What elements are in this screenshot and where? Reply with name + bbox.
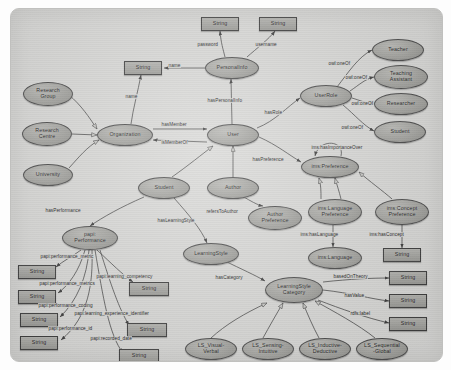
edge-label-el_hasperf: hasPerformance — [45, 208, 81, 213]
graph-node-personalinfo[interactable]: PersonalInfo — [205, 57, 259, 79]
edge-label-el_name_pi: name — [168, 63, 181, 68]
graph-node-student[interactable]: Student — [138, 177, 190, 199]
graph-node-user[interactable]: User — [207, 124, 259, 146]
graph-node-str_p1[interactable]: String — [18, 265, 56, 279]
graph-node-ls_vv[interactable]: LS_Visual-Verbal — [185, 338, 237, 360]
edge-label-el_username: username — [255, 42, 277, 47]
edge-label-el_p_date: papi:recorded_date — [90, 336, 132, 341]
graph-node-str_p2[interactable]: String — [18, 290, 56, 304]
edge-label-el_name_org: name — [125, 94, 138, 99]
edge-label-el_hasmember: hasMember — [161, 122, 187, 127]
graph-node-ls_sg[interactable]: LS_Sequential-Global — [356, 338, 408, 360]
graph-node-imslangpref[interactable]: ims:LanguagePreference — [308, 199, 362, 225]
edge-label-el_password: password — [197, 42, 218, 47]
graph-node-str_p5[interactable]: String — [129, 282, 169, 296]
edge-label-el_ismemberof: isMemberOf — [161, 140, 188, 145]
graph-node-teacher[interactable]: Teacher — [372, 39, 424, 61]
edge-label-el_hascategory: hasCategory — [215, 275, 243, 280]
edge-label-el_hasrole: hasRole — [264, 110, 283, 115]
edge-label-el_p_id: papi:performance_id — [48, 326, 93, 331]
graph-node-author[interactable]: Author — [207, 177, 259, 199]
edge-label-el_p_comp: papi:learning_competency — [96, 274, 153, 279]
edge-label-el_haspersonal: hasPersonalInfo — [207, 98, 243, 103]
graph-node-str_value_2[interactable]: String — [389, 294, 427, 308]
edge-label-el_haspref: hasPreference — [252, 157, 284, 162]
screenshot-root: StringStringStringPersonalInfoTeacherTea… — [0, 0, 451, 370]
graph-node-teachassist[interactable]: TeachingAssistant — [374, 65, 428, 89]
edge-label-el_referstoauth: refersToAuthor — [206, 209, 238, 214]
edge-label-el_haslearnsty: hasLearningStyle — [157, 218, 195, 223]
edge-label-el_hasvalue: hasValue — [344, 293, 365, 298]
graph-node-str_p7[interactable]: String — [119, 349, 159, 362]
edge-label-el_imsconcept: ims:hasConcept — [369, 232, 404, 237]
graph-node-str_p3[interactable]: String — [20, 313, 58, 327]
graph-node-str_p4[interactable]: String — [20, 336, 58, 350]
graph-node-imsconceptpref[interactable]: ims:ConceptPreference — [375, 199, 429, 225]
edge-label-el_oneof3: owl:oneOf — [351, 101, 374, 106]
graph-node-str_p6[interactable]: String — [127, 323, 167, 337]
graph-node-str_value_3[interactable]: String — [389, 317, 427, 331]
edge-label-el_oneof4: owl:oneOf — [341, 125, 364, 130]
edge-label-el_p_lei: papi:learning_experience_identifier — [74, 311, 149, 316]
graph-node-str_username[interactable]: String — [259, 17, 297, 31]
graph-node-organization[interactable]: Organization — [97, 124, 153, 146]
graph-node-papiperf[interactable]: papi:Performance — [62, 226, 118, 250]
edge-label-el_oneof2: owl:oneOf — [345, 75, 368, 80]
edge-label-el_p_metric2: papi:performance_metrics — [39, 281, 95, 286]
graph-node-imspref[interactable]: ims:Preference — [301, 156, 359, 178]
graph-node-learningstyle[interactable]: LearningStyle — [183, 243, 239, 265]
edge-label-el_oneof1: owl:oneOf — [328, 61, 351, 66]
graph-node-userrole[interactable]: UserRole — [300, 85, 352, 107]
graph-node-str_name[interactable]: String — [124, 61, 162, 75]
graph-node-researcher[interactable]: Researcher — [374, 93, 428, 115]
edge-label-el_rdfslabel: rdfs:label — [350, 311, 371, 316]
graph-node-lscategory[interactable]: LearningStyleCategory — [265, 277, 323, 303]
edge-label-el_basedon: basedOnTheory — [333, 274, 368, 279]
graph-node-str_password[interactable]: String — [201, 17, 239, 31]
edge-label-el_importance: ims:hasImportanceOver — [311, 145, 363, 150]
graph-node-authorpref[interactable]: AuthorPreference — [248, 206, 302, 230]
graph-node-researchcentre[interactable]: ResearchCentre — [22, 122, 72, 146]
graph-node-str_value_1[interactable]: String — [389, 271, 427, 285]
diagram-canvas: StringStringStringPersonalInfoTeacherTea… — [10, 8, 443, 362]
edge-label-el_imslang: ims:hasLanguage — [300, 232, 339, 237]
graph-node-ls_si[interactable]: LS_Sensing-Intuitive — [242, 338, 294, 360]
edge-label-el_p_metric: papi:performance_metric — [40, 254, 94, 259]
edge-label-el_p_coding: papi:performance_coding — [38, 303, 93, 308]
graph-node-str_concept[interactable]: String — [383, 248, 421, 262]
graph-node-university[interactable]: University — [23, 164, 73, 186]
graph-node-student_role[interactable]: Student — [374, 121, 426, 143]
graph-node-imslanguage[interactable]: ims:Language — [308, 247, 362, 269]
graph-node-ls_id[interactable]: LS_Inductive-Deductive — [299, 338, 351, 360]
graph-node-researchgroup[interactable]: ResearchGroup — [23, 82, 73, 106]
